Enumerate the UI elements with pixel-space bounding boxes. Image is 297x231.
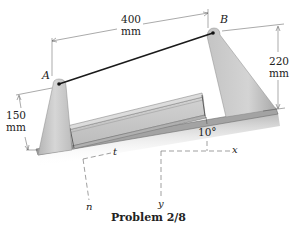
- dim-400-label: 400 mm: [116, 14, 146, 36]
- left-support: [38, 79, 72, 155]
- dim-150-unit: mm: [2, 122, 30, 133]
- axis-label-y: y: [158, 199, 164, 209]
- point-label-a: A: [42, 70, 50, 81]
- pin-a: [57, 82, 61, 86]
- axis-label-t: t: [113, 147, 117, 157]
- dim-400-value: 400: [116, 14, 146, 25]
- point-label-b: B: [220, 14, 228, 25]
- dim-220-value: 220: [265, 56, 293, 67]
- figure-caption: Problem 2/8: [0, 211, 297, 224]
- axis-label-x: x: [232, 145, 238, 155]
- tn-axes: [83, 153, 111, 200]
- dim-150-value: 150: [2, 110, 30, 121]
- angle-label: 10°: [198, 127, 217, 138]
- problem-figure: A B 400 mm 220 mm 150 mm 10° x y t n Pro…: [0, 0, 297, 231]
- pin-b: [211, 31, 215, 35]
- dim-400-unit: mm: [116, 26, 146, 37]
- dim-220-unit: mm: [265, 68, 293, 79]
- cable-ab: [59, 33, 213, 84]
- dim-220-label: 220 mm: [265, 56, 293, 78]
- xy-axes: [161, 141, 230, 198]
- dim-150-label: 150 mm: [2, 110, 30, 132]
- diagram-canvas: [0, 0, 297, 231]
